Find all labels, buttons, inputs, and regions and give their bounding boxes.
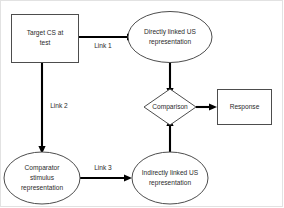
edge-link1: Link 1: [79, 33, 135, 49]
arrowhead-icon: [124, 174, 132, 181]
edge-label-link3: Link 3: [94, 164, 112, 171]
node-direct-us-label-line2: representation: [149, 38, 191, 46]
edge-label-link1: Link 1: [94, 42, 112, 49]
edge-label-link2: Link 2: [50, 102, 68, 109]
node-response[interactable]: Response: [218, 90, 272, 125]
diagram-canvas: Link 1 Link 2 Link 3: [0, 0, 284, 208]
node-indirect-us-label-line1: Indirectly linked US: [142, 169, 199, 177]
node-comparator-stimulus-label-line3: representation: [21, 184, 63, 192]
node-comparator-stimulus-label-line2: stimulus: [30, 174, 55, 181]
edge-comparison-to-response: [196, 103, 217, 110]
node-comparison-label: Comparison: [152, 103, 188, 111]
node-target-cs-label-line2: test: [40, 39, 51, 46]
node-response-label: Response: [230, 103, 260, 111]
node-target-cs[interactable]: Target CS at test: [12, 15, 79, 63]
node-direct-us-label-line1: Directly linked US: [144, 28, 197, 36]
node-target-cs-label-line1: Target CS at: [27, 29, 64, 37]
arrowhead-icon: [209, 103, 217, 110]
node-comparison[interactable]: Comparison: [144, 89, 196, 125]
node-direct-us[interactable]: Directly linked US representation: [128, 12, 212, 63]
node-comparator-stimulus-label-line1: Comparator: [25, 164, 61, 172]
node-comparator-stimulus[interactable]: Comparator stimulus representation: [4, 152, 80, 204]
edge-link2: Link 2: [38, 63, 68, 154]
edge-link3: Link 3: [80, 164, 132, 182]
node-indirect-us[interactable]: Indirectly linked US representation: [132, 152, 208, 204]
node-indirect-us-label-line2: representation: [149, 179, 191, 187]
comparator-hypothesis-diagram: Link 1 Link 2 Link 3: [0, 0, 284, 208]
